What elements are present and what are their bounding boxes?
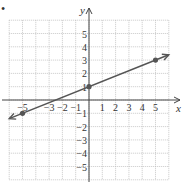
y-tick-label: 2 (82, 68, 87, 79)
y-tick-label: 4 (82, 42, 87, 53)
y-tick-label: 3 (82, 55, 87, 66)
x-tick-label: 5 (153, 102, 158, 113)
x-tick-label: −2 (57, 102, 68, 113)
data-point (86, 84, 91, 89)
data-point (20, 111, 25, 116)
x-tick-label: 4 (140, 102, 145, 113)
y-tick-label: 5 (82, 29, 87, 40)
data-point (153, 58, 158, 63)
y-tick-label: −4 (76, 148, 87, 159)
y-axis-label: y (79, 4, 85, 16)
y-tick-label: −1 (76, 108, 87, 119)
x-tick-label: 3 (126, 102, 131, 113)
x-tick-label: 2 (113, 102, 118, 113)
plot-area: xy−5−3−2−11234554321−1−2−3−4−5 (0, 0, 185, 182)
y-tick-label: −2 (76, 122, 87, 133)
coordinate-graph: • xy−5−3−2−11234554321−1−2−3−4−5 (0, 0, 185, 182)
y-tick-label: −3 (76, 135, 87, 146)
x-axis-label: x (175, 102, 181, 114)
x-tick-label: 1 (100, 102, 105, 113)
y-tick-label: −5 (76, 162, 87, 173)
